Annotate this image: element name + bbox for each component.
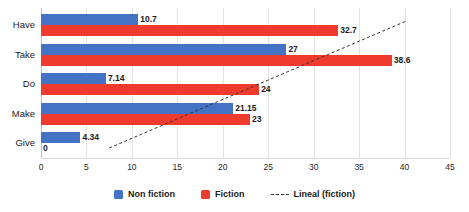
legend-label: Lineal (fiction) (294, 189, 356, 199)
category-label: Do (0, 73, 35, 95)
x-tick-label: 0 (39, 162, 44, 172)
legend-swatch-icon (114, 190, 123, 199)
bar-value-label: 23 (252, 114, 261, 125)
bar-fiction[interactable] (41, 84, 259, 95)
bar-fiction[interactable] (41, 114, 250, 125)
bar-value-label: 32.7 (340, 25, 357, 36)
category-label: Take (0, 44, 35, 66)
bar-non-fiction[interactable] (41, 73, 106, 84)
category-label: Give (0, 132, 35, 154)
bar-fiction[interactable] (41, 25, 338, 36)
x-tick-label: 45 (445, 162, 454, 172)
gridline (450, 8, 451, 158)
x-axis-line (41, 158, 450, 159)
bar-group: Make21.1523 (41, 103, 450, 125)
bar-value-label: 24 (261, 84, 270, 95)
legend-item-fiction[interactable]: Fiction (201, 189, 245, 199)
bar-group: Give4.340 (41, 132, 450, 154)
x-tick-label: 20 (218, 162, 227, 172)
legend-label: Non fiction (128, 189, 175, 199)
x-tick-label: 35 (354, 162, 363, 172)
bar-value-label: 21.15 (235, 103, 256, 114)
bar-group: Have10.732.7 (41, 14, 450, 36)
legend-item-trendline[interactable]: Lineal (fiction) (271, 189, 356, 199)
bar-value-label: 10.7 (140, 14, 157, 25)
x-tick-label: 40 (400, 162, 409, 172)
bar-non-fiction[interactable] (41, 132, 80, 143)
x-tick-label: 30 (309, 162, 318, 172)
dashed-line-icon (271, 194, 289, 195)
bar-value-label: 27 (288, 44, 297, 55)
bar-value-label: 7.14 (108, 73, 125, 84)
x-tick-label: 15 (173, 162, 182, 172)
x-axis: 051015202530354045 (41, 158, 450, 176)
category-label: Make (0, 103, 35, 125)
bar-non-fiction[interactable] (41, 103, 233, 114)
bar-non-fiction[interactable] (41, 14, 138, 25)
category-label: Have (0, 14, 35, 36)
bar-group: Take2738.6 (41, 44, 450, 66)
bar-value-label: 4.34 (82, 132, 99, 143)
bar-value-label: 38.6 (394, 55, 411, 66)
bar-fiction[interactable] (41, 55, 392, 66)
x-tick-label: 25 (263, 162, 272, 172)
bar-chart: Have10.732.7Take2738.6Do7.1424Make21.152… (0, 0, 469, 212)
x-tick-label: 5 (84, 162, 89, 172)
bar-group: Do7.1424 (41, 73, 450, 95)
bar-value-label: 0 (43, 143, 48, 154)
chart-legend: Non fiction Fiction Lineal (fiction) (0, 184, 469, 204)
x-tick-label: 10 (127, 162, 136, 172)
legend-swatch-icon (201, 190, 210, 199)
legend-item-non-fiction[interactable]: Non fiction (114, 189, 175, 199)
bar-non-fiction[interactable] (41, 44, 286, 55)
legend-label: Fiction (215, 189, 245, 199)
plot-area: Have10.732.7Take2738.6Do7.1424Make21.152… (41, 8, 450, 158)
